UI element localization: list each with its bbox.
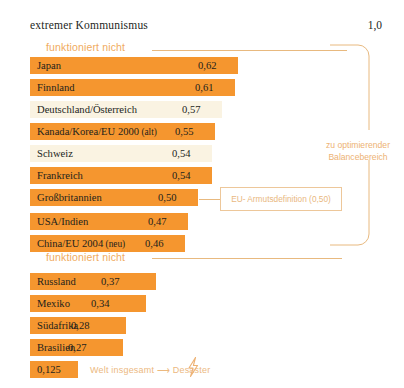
bar-row: Mexiko0,34: [30, 295, 146, 312]
balance-range-label-line2: Balancebereich: [328, 152, 387, 162]
bar-row: Deutschland/Österreich0,57: [30, 101, 222, 118]
bar-value-label: 0,62: [198, 60, 217, 71]
bar-row: Frankreich0,54: [30, 167, 212, 184]
bar-value-label: 0,37: [101, 276, 120, 287]
bar-category-label: Mexiko: [30, 298, 70, 309]
world-total-value: 0,125: [30, 364, 61, 375]
chart-header-left-label: extremer Kommunismus: [30, 19, 148, 31]
bar-category-label: USA/Indien: [30, 216, 88, 227]
bar-row: Russland0,37: [30, 273, 156, 290]
balance-range-label: zu optimierender Balancebereich: [318, 139, 398, 163]
bar-category-label: Russland: [30, 276, 76, 287]
bar-value-label: 0,28: [71, 320, 90, 331]
bar-row: Finnland0,61: [30, 79, 235, 96]
bar-value-label: 0,57: [182, 104, 201, 115]
caption-top-rule: [152, 50, 347, 51]
bar-value-label: 0,54: [172, 170, 191, 181]
bar-category-label: China/EU 2004 (neu): [30, 238, 125, 249]
bar-category-label: Finnland: [30, 82, 75, 93]
bar-value-label: 0,50: [158, 192, 177, 203]
lightning-bolt-icon: [186, 357, 200, 377]
bar-row: China/EU 2004 (neu)0,46: [30, 235, 185, 252]
bar-row: Japan0,62: [30, 57, 238, 74]
bar-row: Kanada/Korea/EU 2000 (alt)0,55: [30, 123, 215, 140]
bar-category-label: Schweiz: [30, 148, 73, 159]
world-total-bar: 0,125: [30, 361, 78, 378]
bar-chart-canvas: extremer Kommunismus 1,0 funktioniert ni…: [0, 0, 404, 388]
bar-row: Schweiz0,54: [30, 145, 212, 162]
bar-category-label: Deutschland/Österreich: [30, 104, 137, 115]
bar-value-label: 0,55: [175, 126, 194, 137]
bar-category-label: Kanada/Korea/EU 2000 (alt): [30, 126, 157, 137]
callout-leader-line: [199, 199, 221, 200]
bar-value-label: 0,46: [145, 238, 164, 249]
eu-poverty-definition-label: EU- Armutsdefinition (0,50): [231, 194, 331, 204]
bar-row: USA/Indien0,47: [30, 213, 188, 230]
bar-category-label: Frankreich: [30, 170, 83, 181]
bar-value-label: 0,27: [68, 342, 87, 353]
bar-value-label: 0,34: [91, 298, 110, 309]
eu-poverty-definition-callout: EU- Armutsdefinition (0,50): [220, 187, 342, 211]
bar-value-label: 0,61: [195, 82, 214, 93]
caption-middle: funktioniert nicht: [46, 251, 125, 263]
bar-value-label: 0,47: [148, 216, 167, 227]
balance-range-label-line1: zu optimierender: [326, 140, 390, 150]
caption-middle-rule: [152, 258, 342, 259]
chart-axis-max-label: 1,0: [368, 19, 382, 31]
bar-value-label: 0,54: [172, 148, 191, 159]
bar-category-label: Japan: [30, 60, 61, 71]
caption-top: funktioniert nicht: [46, 41, 125, 53]
bar-row: Südafrika0,28: [30, 317, 126, 334]
bar-row: Großbritannien0,50: [30, 189, 198, 206]
bar-category-label: Großbritannien: [30, 192, 102, 203]
bar-row: Brasilien0,27: [30, 339, 123, 356]
